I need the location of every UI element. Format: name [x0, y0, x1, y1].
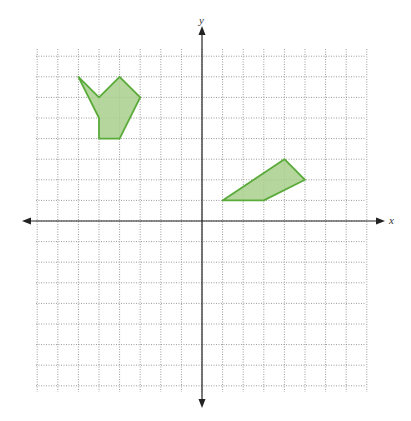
- x-axis-label: x: [388, 214, 394, 226]
- axes: [22, 26, 385, 408]
- x-axis-right-arrow-icon: [376, 218, 385, 225]
- y-axis-label: y: [198, 14, 204, 26]
- shape-b: [223, 159, 305, 200]
- x-axis-left-arrow-icon: [22, 218, 31, 225]
- shape-a: [78, 77, 140, 139]
- coordinate-plane: x y: [0, 0, 411, 421]
- y-axis-up-arrow-icon: [199, 26, 206, 35]
- y-axis-down-arrow-icon: [199, 399, 206, 408]
